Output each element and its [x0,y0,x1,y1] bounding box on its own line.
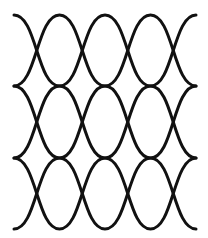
wave-strand [14,15,196,86]
wave-strand [14,158,196,229]
wave-strand [14,158,196,229]
wave-lattice-pattern [0,0,208,238]
wave-strand [14,86,196,158]
wave-strand [14,15,196,86]
wave-strands [14,15,196,229]
wave-strand [14,86,196,158]
